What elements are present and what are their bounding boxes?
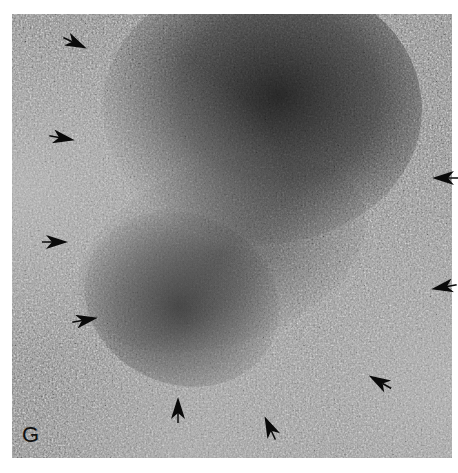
arrowhead-icon <box>42 235 68 249</box>
arrowhead-icon <box>432 171 458 185</box>
panel-label: G <box>22 424 39 446</box>
arrowhead-icon <box>430 278 458 296</box>
arrowhead-icon <box>171 397 185 423</box>
